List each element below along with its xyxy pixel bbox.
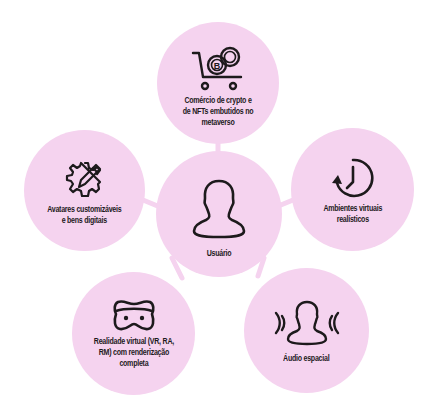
node-label: Avatares customizáveis e bens digitais: [47, 204, 121, 226]
user-icon: [189, 178, 249, 240]
center-label: Usuário: [207, 248, 232, 259]
node-label: Ambientes virtuais realísticos: [323, 203, 382, 225]
node-crypto-commerce: B Comércio de crypto e de NFTs embutidos…: [157, 22, 279, 144]
metaverse-diagram: B Comércio de crypto e de NFTs embutidos…: [0, 0, 436, 407]
node-environments: Ambientes virtuais realísticos: [291, 128, 414, 251]
svg-text:B: B: [214, 60, 221, 70]
node-avatars: Avatares customizáveis e bens digitais: [24, 130, 145, 251]
cart-crypto-icon: B: [191, 45, 245, 91]
node-virtual-reality: Realidade virtual (VR, RA, RM) com rende…: [72, 272, 195, 395]
node-label: Comércio de crypto e de NFTs embutidos n…: [183, 95, 254, 128]
node-spatial-audio: Áudio espacial: [244, 268, 369, 393]
clock-rotate-icon: [332, 157, 374, 199]
gear-pencil-icon: [65, 160, 105, 200]
node-label: Áudio espacial: [283, 353, 329, 364]
vr-headset-icon: [112, 298, 156, 332]
node-label: Realidade virtual (VR, RA, RM) com rende…: [93, 336, 173, 369]
node-user-center: Usuário: [156, 151, 282, 277]
spatial-audio-user-icon: [270, 299, 344, 349]
